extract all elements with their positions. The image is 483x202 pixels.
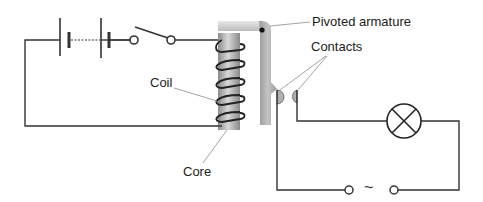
contacts <box>277 90 297 104</box>
leader-core <box>203 130 227 163</box>
label-coil: Coil <box>150 76 172 89</box>
label-pivoted-armature: Pivoted armature <box>312 15 411 28</box>
label-contacts: Contacts <box>311 40 362 53</box>
contact-left <box>277 90 284 104</box>
secondary-wire-to-lamp <box>297 90 387 121</box>
battery-icon <box>60 18 130 58</box>
primary-circuit <box>25 40 222 126</box>
pivot-icon <box>259 27 264 32</box>
leader-coil <box>174 88 217 101</box>
lamp-icon <box>387 104 421 138</box>
relay-diagram-svg <box>0 0 483 202</box>
secondary-circuit <box>277 90 459 190</box>
leader-contact-left <box>280 56 326 90</box>
switch-icon <box>130 27 175 44</box>
primary-wire-left-bottom <box>25 40 218 126</box>
secondary-wire-left <box>277 90 345 190</box>
label-core: Core <box>183 165 211 178</box>
relay-diagram: Pivoted armature Contacts Coil Core ~ <box>0 0 483 202</box>
leader-armature <box>270 22 310 26</box>
ac-symbol: ~ <box>364 180 373 196</box>
leader-lines <box>174 22 327 163</box>
